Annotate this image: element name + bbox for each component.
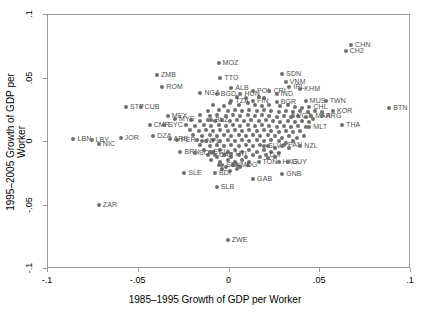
x-tick-mark bbox=[138, 268, 139, 272]
data-point bbox=[269, 109, 273, 113]
data-point bbox=[178, 150, 182, 154]
data-point bbox=[264, 118, 268, 122]
data-point bbox=[287, 85, 291, 89]
data-point bbox=[280, 136, 284, 140]
data-point bbox=[387, 106, 391, 110]
data-point bbox=[267, 114, 271, 118]
x-tick-label: 0 bbox=[226, 276, 231, 285]
data-point bbox=[295, 136, 299, 140]
data-point bbox=[204, 128, 208, 132]
data-point bbox=[97, 142, 101, 146]
data-point bbox=[231, 113, 235, 117]
x-tick-label: -.1 bbox=[42, 276, 53, 285]
data-point-label: BRN bbox=[184, 148, 199, 155]
data-point-label: BDI bbox=[219, 169, 231, 176]
data-point bbox=[247, 139, 251, 143]
data-point-label: ZAR bbox=[103, 201, 117, 208]
data-point bbox=[148, 123, 152, 127]
data-point bbox=[275, 100, 279, 104]
data-point bbox=[293, 105, 297, 109]
data-point bbox=[240, 129, 244, 133]
data-point bbox=[307, 120, 311, 124]
data-point bbox=[237, 133, 241, 137]
x-tick-mark bbox=[410, 268, 411, 272]
y-tick-label: .1 bbox=[25, 4, 34, 24]
data-point-label: SDN bbox=[286, 70, 301, 77]
data-point-label: SLE bbox=[188, 169, 202, 176]
data-point bbox=[260, 123, 264, 127]
data-point bbox=[344, 49, 348, 53]
data-point-label: NIC bbox=[103, 140, 115, 147]
data-point-label: GUY bbox=[292, 158, 307, 165]
data-point bbox=[251, 133, 255, 137]
data-point bbox=[229, 99, 233, 103]
data-point bbox=[298, 129, 302, 133]
data-point-label: ROM bbox=[166, 83, 183, 90]
data-point bbox=[300, 119, 304, 123]
data-point bbox=[97, 203, 101, 207]
data-point bbox=[217, 108, 221, 112]
x-tick-mark bbox=[229, 268, 230, 272]
data-point-label: THA bbox=[346, 121, 360, 128]
data-point bbox=[226, 138, 230, 142]
data-point-label: JOR bbox=[125, 134, 139, 141]
data-point bbox=[238, 124, 242, 128]
x-tick-label: -.05 bbox=[130, 276, 146, 285]
data-point bbox=[298, 87, 302, 91]
data-point bbox=[233, 108, 237, 112]
x-tick-mark bbox=[47, 268, 48, 272]
data-point bbox=[168, 137, 172, 141]
data-point-label: MDG bbox=[241, 161, 258, 168]
y-tick-mark bbox=[43, 205, 47, 206]
data-point-label: FIN bbox=[257, 97, 269, 104]
data-point bbox=[188, 128, 192, 132]
data-point bbox=[275, 125, 279, 129]
data-point bbox=[206, 109, 210, 113]
y-tick-mark bbox=[43, 78, 47, 79]
data-point bbox=[284, 129, 288, 133]
data-point bbox=[247, 148, 251, 152]
data-point bbox=[273, 134, 277, 138]
data-point bbox=[282, 124, 286, 128]
data-point bbox=[277, 110, 281, 114]
data-point bbox=[271, 119, 275, 123]
data-point-label: ZMB bbox=[161, 71, 176, 78]
data-point bbox=[240, 138, 244, 142]
data-point-label: BGD bbox=[221, 90, 236, 97]
data-point bbox=[320, 114, 324, 118]
data-point bbox=[287, 134, 291, 138]
data-point bbox=[218, 128, 222, 132]
data-point bbox=[302, 134, 306, 138]
data-point bbox=[226, 129, 230, 133]
data-point bbox=[307, 125, 311, 129]
data-point bbox=[244, 143, 248, 147]
data-point bbox=[266, 133, 270, 137]
y-tick-mark bbox=[43, 14, 47, 15]
data-point bbox=[213, 171, 217, 175]
data-point bbox=[229, 134, 233, 138]
data-point bbox=[267, 124, 271, 128]
data-point bbox=[208, 150, 212, 154]
data-point bbox=[222, 133, 226, 137]
data-point bbox=[284, 109, 288, 113]
data-point-label: NZL bbox=[304, 142, 318, 149]
data-point bbox=[296, 124, 300, 128]
data-point bbox=[211, 103, 215, 107]
data-point bbox=[251, 153, 255, 157]
data-point bbox=[262, 128, 266, 132]
data-point bbox=[275, 92, 279, 96]
x-axis-title: 1985–1995 Growth of GDP per Worker bbox=[0, 294, 430, 305]
data-point bbox=[202, 123, 206, 127]
data-point-label: BLZ bbox=[215, 116, 228, 123]
data-point-label: CHL bbox=[313, 103, 327, 110]
data-point bbox=[217, 61, 221, 65]
data-point bbox=[286, 160, 290, 164]
data-point-label: SLV bbox=[268, 142, 281, 149]
data-point-label: GAB bbox=[257, 175, 272, 182]
data-point bbox=[184, 123, 188, 127]
y-tick-mark bbox=[43, 141, 47, 142]
x-tick-mark bbox=[319, 268, 320, 272]
data-point bbox=[255, 138, 259, 142]
data-point bbox=[71, 137, 75, 141]
data-point-label: MLT bbox=[313, 123, 327, 130]
